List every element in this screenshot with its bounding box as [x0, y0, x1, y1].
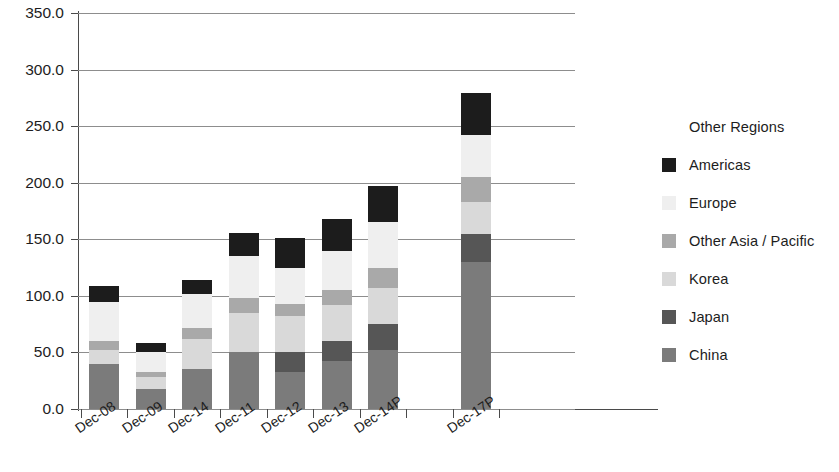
y-axis-tick-mark — [71, 13, 78, 14]
bar-segment-americas — [89, 286, 119, 302]
bar-segment-japan — [368, 324, 398, 350]
y-axis-tick-label: 150.0 — [25, 230, 64, 248]
legend-item-other-asia-pacific[interactable]: Other Asia / Pacific — [662, 222, 839, 260]
bar-segment-americas — [368, 186, 398, 222]
y-axis-tick-mark — [71, 296, 78, 297]
bar-segment-americas — [461, 93, 491, 135]
y-axis-tick-label: 300.0 — [25, 61, 64, 79]
y-axis-tick-label: 200.0 — [25, 174, 64, 192]
bar-Dec-08[interactable] — [89, 286, 119, 409]
legend-item-china[interactable]: China — [662, 336, 839, 374]
bar-segment-korea — [461, 202, 491, 234]
bar-Dec-14P[interactable] — [368, 186, 398, 409]
bar-segment-americas — [136, 343, 166, 352]
plot-area — [78, 13, 575, 409]
bar-segment-europe — [182, 294, 212, 328]
bar-segment-europe — [368, 222, 398, 267]
bar-Dec-09[interactable] — [136, 343, 166, 409]
y-axis-tick-label: 100.0 — [25, 287, 64, 305]
y-axis-tick-label: 350.0 — [25, 4, 64, 22]
legend-label: Other Regions — [689, 119, 784, 135]
bar-segment-korea — [89, 350, 119, 364]
legend-swatch-icon — [662, 158, 676, 172]
y-axis-tick-label: 50.0 — [34, 343, 64, 361]
bar-segment-europe — [461, 135, 491, 177]
legend-item-japan[interactable]: Japan — [662, 298, 839, 336]
y-axis-labels: 350.0300.0250.0200.0150.0100.050.00.0 — [0, 0, 74, 472]
bar-segment-other-asia-pacific — [461, 177, 491, 202]
bar-Dec-11[interactable] — [229, 233, 259, 409]
legend-label: Korea — [689, 271, 728, 287]
bar-segment-other-asia-pacific — [229, 298, 259, 313]
bar-Dec-14[interactable] — [182, 280, 212, 409]
bar-segment-korea — [275, 316, 305, 352]
bar-segment-japan — [461, 234, 491, 262]
bar-segment-korea — [136, 377, 166, 388]
bar-segment-europe — [136, 352, 166, 371]
legend-item-europe[interactable]: Europe — [662, 184, 839, 222]
legend-swatch-icon — [662, 120, 676, 134]
legend-swatch-icon — [662, 348, 676, 362]
legend-swatch-icon — [662, 272, 676, 286]
bars-group — [78, 13, 575, 409]
bar-segment-americas — [229, 233, 259, 257]
y-axis-tick-mark — [71, 70, 78, 71]
bar-Dec-12[interactable] — [275, 238, 305, 409]
bar-segment-korea — [368, 288, 398, 324]
bar-segment-other-asia-pacific — [368, 268, 398, 288]
bar-segment-china — [461, 262, 491, 409]
chart-legend: Other RegionsAmericasEuropeOther Asia / … — [662, 108, 839, 374]
legend-swatch-icon — [662, 196, 676, 210]
legend-label: China — [689, 347, 728, 363]
bar-segment-korea — [322, 305, 352, 341]
bar-segment-europe — [275, 268, 305, 304]
stacked-bar-chart: 350.0300.0250.0200.0150.0100.050.00.0 De… — [0, 0, 839, 472]
bar-segment-americas — [322, 219, 352, 251]
legend-label: Europe — [689, 195, 737, 211]
legend-label: Other Asia / Pacific — [689, 233, 814, 249]
bar-segment-europe — [322, 251, 352, 291]
bar-segment-americas — [275, 238, 305, 267]
legend-item-other-regions[interactable]: Other Regions — [662, 108, 839, 146]
bar-segment-korea — [229, 313, 259, 353]
y-axis-tick-mark — [71, 352, 78, 353]
legend-swatch-icon — [662, 234, 676, 248]
bar-Dec-13[interactable] — [322, 219, 352, 409]
legend-label: Japan — [689, 309, 729, 325]
x-axis-labels: Dec-08Dec-09Dec-14Dec-11Dec-12Dec-13Dec-… — [0, 409, 700, 472]
bar-segment-europe — [229, 256, 259, 298]
legend-item-korea[interactable]: Korea — [662, 260, 839, 298]
legend-item-americas[interactable]: Americas — [662, 146, 839, 184]
legend-swatch-icon — [662, 310, 676, 324]
y-axis-tick-label: 250.0 — [25, 117, 64, 135]
bar-segment-other-asia-pacific — [89, 341, 119, 350]
bar-segment-japan — [275, 352, 305, 371]
y-axis-tick-mark — [71, 239, 78, 240]
bar-segment-americas — [182, 280, 212, 294]
legend-label: Americas — [689, 157, 751, 173]
y-axis-tick-mark — [71, 183, 78, 184]
y-axis-tick-mark — [71, 126, 78, 127]
bar-segment-japan — [322, 341, 352, 361]
bar-segment-korea — [182, 339, 212, 370]
bar-segment-other-asia-pacific — [322, 290, 352, 305]
bar-segment-europe — [89, 302, 119, 342]
bar-Dec-17P[interactable] — [461, 93, 491, 409]
bar-segment-other-asia-pacific — [182, 328, 212, 339]
bar-segment-other-asia-pacific — [275, 304, 305, 316]
